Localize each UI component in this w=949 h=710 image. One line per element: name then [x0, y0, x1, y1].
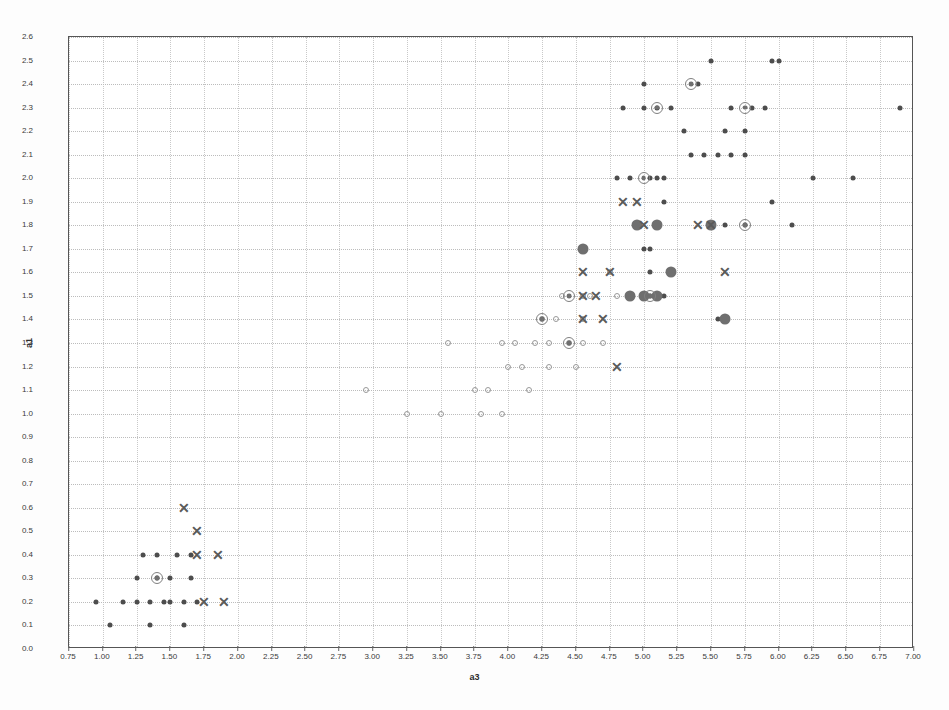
- data-point-dot: [851, 176, 856, 181]
- x-axis-tick-label: 5.25: [669, 652, 685, 661]
- data-point-cross: ✕: [597, 312, 609, 326]
- x-axis-tick-label: 0.75: [60, 652, 76, 661]
- gridline-horizontal: [69, 578, 912, 580]
- data-point-cross: ✕: [191, 548, 203, 562]
- data-point-ring: [638, 172, 650, 184]
- data-point-dot: [682, 129, 687, 134]
- gridline-horizontal: [69, 296, 912, 298]
- data-point-hollow: [573, 364, 579, 370]
- y-axis-tick-label: 0.2: [0, 596, 33, 605]
- data-point-dot: [141, 552, 146, 557]
- gridline-vertical: [103, 37, 105, 647]
- data-point-dot: [628, 293, 633, 298]
- gridline-vertical: [170, 37, 172, 647]
- gridline-horizontal: [69, 367, 912, 369]
- gridline-horizontal: [69, 37, 912, 39]
- y-axis-tick-label: 2.3: [0, 102, 33, 111]
- x-axis-tick-label: 3.00: [364, 652, 380, 661]
- y-axis-tick-label: 1.8: [0, 220, 33, 229]
- data-point-cross: ✕: [577, 289, 589, 303]
- data-point-ring: [685, 78, 697, 90]
- data-point-dot: [661, 199, 666, 204]
- gridline-horizontal: [69, 508, 912, 510]
- bullseye-center: [154, 576, 159, 581]
- gridline-horizontal: [69, 155, 912, 157]
- y-axis-tick-label: 1.5: [0, 290, 33, 299]
- data-point-dot: [688, 152, 693, 157]
- x-axis-tick-label: 2.25: [263, 652, 279, 661]
- gridline-vertical: [137, 37, 139, 647]
- data-point-dot: [121, 599, 126, 604]
- gridline-vertical: [373, 37, 375, 647]
- gridline-horizontal: [69, 178, 912, 180]
- x-axis-tick-label: 6.75: [871, 652, 887, 661]
- data-point-ring: [536, 313, 548, 325]
- data-point-dot: [621, 105, 626, 110]
- data-point-dot: [648, 293, 653, 298]
- data-point-dot: [628, 176, 633, 181]
- data-point-hollow: [438, 411, 444, 417]
- data-point-dot: [94, 599, 99, 604]
- data-point-dot: [715, 152, 720, 157]
- gridline-vertical: [238, 37, 240, 647]
- gridline-horizontal: [69, 484, 912, 486]
- data-point-hollow: [553, 316, 559, 322]
- data-point-hollow: [485, 387, 491, 393]
- data-point-hollow: [546, 364, 552, 370]
- x-axis-tick-label: 3.75: [466, 652, 482, 661]
- data-point-hollow: [445, 340, 451, 346]
- gridline-horizontal: [69, 461, 912, 463]
- data-point-dot: [134, 599, 139, 604]
- gridline-vertical: [542, 37, 544, 647]
- gridline-vertical: [610, 37, 612, 647]
- x-axis-tick-label: 2.75: [331, 652, 347, 661]
- data-point-dot: [702, 152, 707, 157]
- data-point-hollow: [472, 387, 478, 393]
- gridline-vertical: [677, 37, 679, 647]
- gridline-vertical: [779, 37, 781, 647]
- data-point-dot: [188, 576, 193, 581]
- scatter-plot-figure: ✕✕✕✕✕✕✕✕✕✕✕✕✕✕✕✕✕✕✕ a1 a3 0.751.001.251.…: [0, 0, 949, 710]
- y-axis-tick-label: 2.4: [0, 79, 33, 88]
- data-point-hollow: [580, 340, 586, 346]
- gridline-vertical: [576, 37, 578, 647]
- x-axis-tick-label: 4.75: [601, 652, 617, 661]
- bullseye-center: [540, 317, 545, 322]
- y-axis-tick-label: 1.7: [0, 243, 33, 252]
- x-axis-tick-label: 6.00: [770, 652, 786, 661]
- bullseye-center: [655, 105, 660, 110]
- gridline-horizontal: [69, 414, 912, 416]
- y-axis-tick-label: 0.5: [0, 526, 33, 535]
- data-point-dot: [709, 58, 714, 63]
- x-axis-tick-label: 5.50: [702, 652, 718, 661]
- data-point-cross: ✕: [631, 195, 643, 209]
- x-axis-tick-label: 1.00: [94, 652, 110, 661]
- data-point-ring: [651, 102, 663, 114]
- gridline-vertical: [306, 37, 308, 647]
- gridline-horizontal: [69, 272, 912, 274]
- y-axis-tick-label: 2.1: [0, 149, 33, 158]
- data-point-dot: [695, 82, 700, 87]
- y-axis-tick-label: 2.2: [0, 126, 33, 135]
- data-point-dot: [729, 105, 734, 110]
- data-point-hollow: [614, 293, 620, 299]
- data-point-hollow: [404, 411, 410, 417]
- data-point-cross: ✕: [212, 548, 224, 562]
- data-point-dot: [743, 129, 748, 134]
- gridline-vertical: [69, 37, 71, 647]
- data-point-ring: [644, 290, 656, 302]
- data-point-cross: ✕: [705, 218, 717, 232]
- gridline-horizontal: [69, 343, 912, 345]
- data-point-cross: ✕: [604, 265, 616, 279]
- data-point-dot: [790, 223, 795, 228]
- data-point-hollow: [478, 411, 484, 417]
- data-point-dot: [715, 317, 720, 322]
- data-point-dot: [743, 223, 748, 228]
- data-point-dot: [810, 176, 815, 181]
- gridline-vertical: [204, 37, 206, 647]
- data-point-dot: [729, 152, 734, 157]
- data-point-ring: [563, 337, 575, 349]
- data-point-hollow: [499, 340, 505, 346]
- gridline-horizontal: [69, 108, 912, 110]
- gridline-vertical: [745, 37, 747, 647]
